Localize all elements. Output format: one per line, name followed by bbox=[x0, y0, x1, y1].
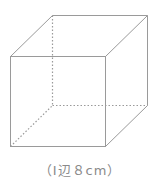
edge-top-right bbox=[106, 16, 148, 57]
front-face bbox=[11, 57, 106, 147]
edge-length-caption: （Ⅰ辺８cm） bbox=[0, 160, 160, 179]
hidden-edge-diagonal bbox=[11, 106, 53, 147]
edge-bottom-right bbox=[106, 106, 148, 147]
cube-diagram bbox=[0, 0, 160, 160]
edge-top-left bbox=[11, 16, 53, 57]
